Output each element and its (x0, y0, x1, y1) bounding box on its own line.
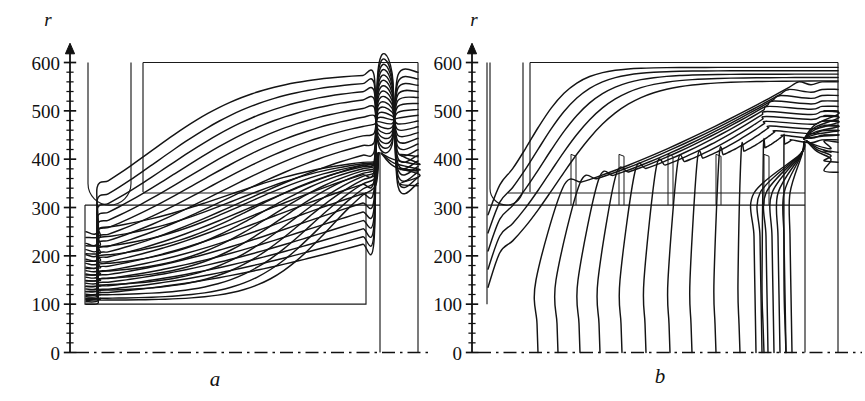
axis-tick-label: 100 (32, 294, 61, 315)
panel-b-axis: 0100200300400500600 (434, 43, 863, 363)
panel-a-axis: 0100200300400500600 (32, 43, 433, 363)
figure-root: 0100200300400500600 r a 0100200300400500… (0, 0, 865, 401)
panel-b-plot: 0100200300400500600 r b (432, 0, 865, 401)
axis-tick-label: 400 (434, 149, 463, 170)
panel-b: 0100200300400500600 r b (432, 0, 865, 401)
field-line (714, 126, 838, 353)
field-line (86, 75, 418, 295)
panel-a: 0100200300400500600 r a (0, 0, 433, 401)
field-line (86, 91, 418, 287)
panel-b-axis-variable: r (470, 9, 478, 30)
axis-tick-label: 200 (32, 246, 61, 267)
field-line (488, 81, 838, 287)
field-line (577, 95, 838, 352)
axis-tick-label: 400 (32, 149, 61, 170)
field-line (86, 76, 418, 245)
field-line (86, 70, 418, 298)
panel-a-plot: 0100200300400500600 r a (0, 0, 433, 401)
u-electrode (490, 63, 523, 206)
axis-tick-label: 0 (51, 343, 61, 364)
field-line (807, 141, 839, 172)
axis-tick-label: 500 (434, 101, 463, 122)
panel-a-axis-variable: r (44, 9, 52, 30)
axis-tick-label: 500 (32, 101, 61, 122)
axis-tick-label: 600 (32, 53, 61, 74)
field-line (86, 97, 418, 261)
axis-tick-label: 200 (434, 246, 463, 267)
axis-tick-label: 0 (453, 343, 463, 364)
field-line (668, 116, 838, 352)
field-line (86, 54, 418, 305)
field-line (597, 101, 838, 353)
panel-b-label: b (655, 364, 666, 388)
axis-tick-label: 300 (434, 198, 463, 219)
panel-a-field-lines (86, 54, 420, 305)
panel-a-label: a (210, 367, 221, 391)
field-line (534, 82, 838, 353)
axis-tick-label: 600 (434, 53, 463, 74)
field-line (643, 111, 838, 352)
panel-b-field-lines (488, 67, 839, 352)
axis-tick-label: 300 (32, 198, 61, 219)
field-line (86, 96, 418, 284)
pin-2 (619, 154, 624, 205)
axis-tick-label: 100 (434, 294, 463, 315)
axis-arrow-icon (467, 43, 476, 54)
axis-arrow-icon (65, 43, 74, 54)
